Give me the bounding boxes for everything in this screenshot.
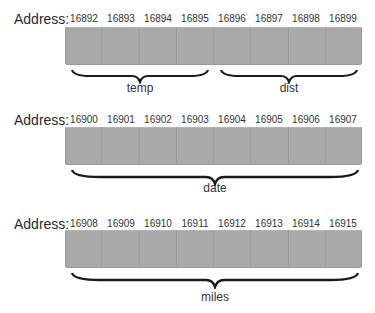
address-number: 16908 — [66, 218, 102, 229]
memory-cell — [289, 27, 326, 65]
memory-cell — [214, 230, 251, 268]
address-number: 16898 — [288, 13, 324, 24]
address-number: 16899 — [325, 13, 361, 24]
memory-cell — [289, 230, 326, 268]
memory-cell — [140, 127, 177, 165]
address-number: 16896 — [214, 13, 250, 24]
address-number: 16893 — [103, 13, 139, 24]
curly-brace-icon — [70, 271, 360, 289]
address-number: 16909 — [103, 218, 139, 229]
memory-block — [65, 127, 362, 165]
address-number: 16913 — [251, 218, 287, 229]
memory-cell — [65, 27, 102, 65]
address-number: 16914 — [288, 218, 324, 229]
memory-cell — [214, 127, 251, 165]
memory-cell — [102, 230, 139, 268]
memory-cell — [289, 127, 326, 165]
memory-cell — [251, 230, 288, 268]
address-label: Address: — [14, 112, 69, 128]
address-number: 16904 — [214, 114, 250, 125]
memory-block — [65, 230, 362, 268]
address-number: 16902 — [140, 114, 176, 125]
memory-cell — [326, 230, 362, 268]
memory-cell — [177, 27, 214, 65]
address-number: 16910 — [140, 218, 176, 229]
address-number: 16907 — [325, 114, 361, 125]
address-label: Address: — [14, 216, 69, 232]
address-number: 16911 — [177, 218, 213, 229]
memory-cell — [251, 27, 288, 65]
memory-cell — [65, 127, 102, 165]
memory-cell — [177, 230, 214, 268]
address-number: 16905 — [251, 114, 287, 125]
variable-label-temp: temp — [110, 81, 170, 95]
address-number: 16912 — [214, 218, 250, 229]
variable-label-date: date — [185, 181, 245, 195]
address-number: 16915 — [325, 218, 361, 229]
variable-label-miles: miles — [185, 290, 245, 304]
address-number: 16892 — [66, 13, 102, 24]
memory-cell — [326, 27, 362, 65]
address-label: Address: — [14, 11, 69, 27]
address-number: 16897 — [251, 13, 287, 24]
address-number: 16901 — [103, 114, 139, 125]
memory-cell — [177, 127, 214, 165]
address-number: 16900 — [66, 114, 102, 125]
memory-cell — [102, 27, 139, 65]
memory-cell — [326, 127, 362, 165]
address-number: 16895 — [177, 13, 213, 24]
variable-label-dist: dist — [259, 81, 319, 95]
memory-cell — [140, 27, 177, 65]
address-number: 16894 — [140, 13, 176, 24]
memory-cell — [102, 127, 139, 165]
address-number: 16906 — [288, 114, 324, 125]
address-number: 16903 — [177, 114, 213, 125]
memory-cell — [65, 230, 102, 268]
memory-cell — [140, 230, 177, 268]
memory-cell — [214, 27, 251, 65]
memory-block — [65, 27, 362, 65]
memory-cell — [251, 127, 288, 165]
